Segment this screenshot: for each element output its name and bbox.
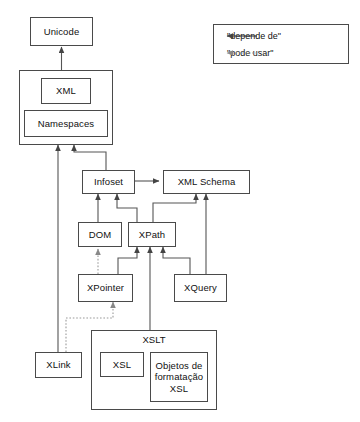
edge-xpointer-xpath xyxy=(118,247,137,274)
node-infoset-label: Infoset xyxy=(94,176,123,187)
edge-infoset-xmlcontainer xyxy=(74,145,106,170)
figure-caption xyxy=(0,412,360,422)
node-xml-schema-label: XML Schema xyxy=(178,176,236,187)
legend-item-depende-de: "depende de" xyxy=(221,31,281,41)
edge-xpath-xmlschema xyxy=(153,194,196,222)
node-infoset[interactable]: Infoset xyxy=(82,170,135,194)
node-unicode[interactable]: Unicode xyxy=(30,17,93,46)
node-xsl-label: XSL xyxy=(113,359,131,370)
edge-xquery-xpath xyxy=(163,247,190,274)
edge-xpath-infoset xyxy=(117,194,137,222)
node-namespaces-label: Namespaces xyxy=(38,118,94,129)
node-xlink[interactable]: XLink xyxy=(35,352,82,378)
node-xpointer-label: XPointer xyxy=(87,282,124,293)
node-xslt-title: XSLT xyxy=(91,334,217,345)
node-xpath[interactable]: XPath xyxy=(128,222,176,247)
node-xpath-label: XPath xyxy=(139,229,165,240)
node-dom[interactable]: DOM xyxy=(78,222,122,247)
node-namespaces[interactable]: Namespaces xyxy=(24,110,108,137)
diagram-canvas: Unicode XML Namespaces Infoset XML Schem… xyxy=(0,0,360,422)
node-xlink-label: XLink xyxy=(46,359,70,370)
node-dom-label: DOM xyxy=(89,229,111,240)
legend-box xyxy=(213,24,349,64)
dotted-arrow-icon xyxy=(221,48,261,58)
node-xpointer[interactable]: XPointer xyxy=(78,274,133,302)
node-xquery-label: XQuery xyxy=(184,282,217,293)
node-xml[interactable]: XML xyxy=(41,78,91,104)
solid-arrow-icon xyxy=(221,31,261,41)
node-unicode-label: Unicode xyxy=(44,26,80,37)
node-xsl[interactable]: XSL xyxy=(100,352,144,377)
node-xsl-formatting-objects[interactable]: Objetos de formatação XSL xyxy=(150,352,208,402)
legend-item-pode-usar: "pode usar" xyxy=(221,48,273,58)
node-xml-schema[interactable]: XML Schema xyxy=(163,170,250,194)
node-xml-label: XML xyxy=(56,85,76,96)
node-xsl-formatting-objects-label: Objetos de formatação XSL xyxy=(153,360,205,394)
node-xquery[interactable]: XQuery xyxy=(174,274,227,302)
